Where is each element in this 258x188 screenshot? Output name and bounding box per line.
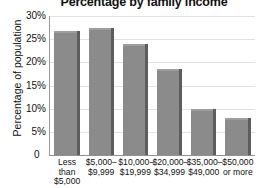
x-axis-tick-label-line: $19,999 [118,168,152,178]
x-axis-tick-label-line: $34,999 [153,168,187,178]
bar-slot [54,16,79,155]
bar-top-face [157,69,179,71]
x-axis-tick-label: $5,000–$9,999 [84,158,118,177]
x-axis-tick-label-line: $9,999 [84,168,118,178]
bar-top-face [89,28,111,30]
x-axis-line [49,155,255,156]
bar-slot [191,16,216,155]
bar [157,69,182,155]
bar [89,28,114,155]
bar-top-face [123,44,145,46]
bar [225,118,250,155]
y-axis-tick-label: 15% [12,80,46,91]
y-axis-tick-label: 25% [12,33,46,44]
y-axis-tick-label: 20% [12,56,46,67]
chart-title: Percentage by family income [30,0,258,9]
x-axis-tick-label: Lessthan$5,000 [50,158,84,187]
bar-slot [123,16,148,155]
y-axis-tick-label: 30% [12,10,46,21]
bar-top-face [225,118,247,120]
x-axis-tick-label: $20,000–$34,999 [153,158,187,177]
bar [123,44,148,155]
bar-top-face [191,109,213,111]
y-axis-tick-label: 10% [12,103,46,114]
x-axis-tick-label-line: $5,000 [50,177,84,187]
bar-slot [225,16,250,155]
y-axis-zero-label: 0 [34,149,40,160]
y-axis-tick-label: 5% [12,126,46,137]
x-axis-tick-label: $35,000–$49,000 [187,158,221,177]
x-axis-tick-label-line: $49,000 [187,168,221,178]
bar-slot [89,16,114,155]
bar [54,31,79,155]
bar-top-face [54,31,76,33]
bar-slot [157,16,182,155]
plot-area [49,16,255,155]
bar-chart: Percentage by family income Percentage o… [0,0,258,188]
bar-series [50,16,255,155]
x-axis-tick-label-line: or more [221,168,255,178]
x-axis-tick-label: $10,000–$19,999 [118,158,152,177]
x-axis-tick-labels: Lessthan$5,000$5,000–$9,999$10,000–$19,9… [50,158,255,188]
bar [191,109,216,155]
x-axis-tick-label: $50,000or more [221,158,255,177]
